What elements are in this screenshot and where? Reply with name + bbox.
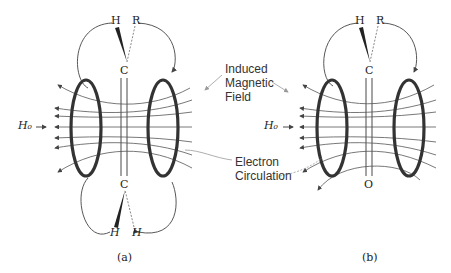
field-label-a: H₀	[18, 119, 32, 132]
atom-c-top-a: C	[120, 64, 128, 77]
wedge-bond-top	[115, 27, 127, 62]
atom-h-top-a: H	[111, 14, 121, 27]
wedge-bond-top-b	[359, 27, 370, 62]
wedge-bond-bottom	[114, 190, 125, 228]
field-label-b: H₀	[264, 119, 278, 132]
atom-h-top-b: H	[355, 14, 365, 27]
bottom-loop-right	[138, 182, 176, 233]
atom-c-top-b: C	[365, 64, 373, 77]
atom-o-bottom-b: O	[364, 178, 373, 191]
atom-c-bottom-a: C	[120, 178, 128, 191]
top-loop-right	[138, 23, 175, 72]
atom-r-top-b: R	[376, 14, 384, 27]
electron-ring-left	[71, 80, 101, 176]
panel-a	[36, 23, 192, 234]
electron-ring-right	[148, 80, 178, 176]
electron-ring-left-b	[317, 80, 347, 176]
bottom-loop-left	[81, 178, 110, 234]
caption-b: (b)	[362, 251, 378, 264]
atom-h-bottom-left-a: H	[110, 226, 120, 239]
diagram-svg	[0, 0, 451, 273]
induced-field-label: Induced Magnetic Field	[225, 62, 274, 104]
atom-h-bottom-right-a: H	[132, 226, 142, 239]
atom-r-top-a: R	[132, 14, 140, 27]
top-loop-left	[77, 23, 112, 88]
electron-ring-right-b	[394, 80, 424, 176]
caption-a: (a)	[117, 251, 132, 264]
electron-circulation-label: Electron Circulation	[235, 155, 292, 183]
panel-b	[283, 23, 436, 190]
